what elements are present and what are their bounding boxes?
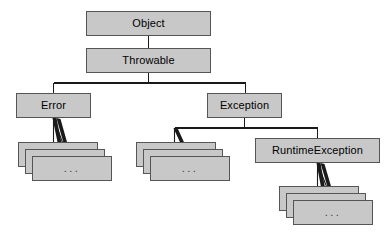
ellipsis-label: ...	[64, 162, 81, 174]
node-error-label: Error	[41, 100, 66, 111]
class-hierarchy-diagram: ... ... ... Object Throwable Error Excep…	[0, 0, 388, 237]
node-object: Object	[86, 11, 211, 36]
node-object-label: Object	[132, 18, 164, 29]
node-error: Error	[16, 93, 91, 118]
node-throwable: Throwable	[86, 48, 211, 73]
stack-card-front: ...	[293, 200, 373, 225]
node-exception-label: Exception	[220, 100, 269, 111]
node-runtimeexception-label: RuntimeException	[272, 145, 363, 156]
node-throwable-label: Throwable	[122, 55, 174, 66]
node-exception: Exception	[207, 93, 282, 118]
node-runtimeexception: RuntimeException	[255, 138, 380, 163]
ellipsis-label: ...	[325, 206, 342, 218]
stack-card-front: ...	[32, 156, 112, 181]
stack-card-front: ...	[150, 156, 230, 181]
ellipsis-label: ...	[182, 162, 199, 174]
